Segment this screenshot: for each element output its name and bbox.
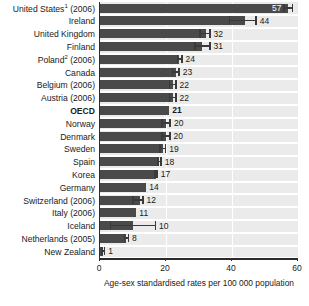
- bar: [100, 106, 169, 115]
- bar-value-label: 1: [108, 245, 113, 257]
- x-tick-mark: [231, 258, 232, 261]
- error-bar-cap: [160, 157, 162, 166]
- bar-value-label: 44: [260, 15, 269, 27]
- category-label: Poland2 (2006): [0, 54, 95, 66]
- error-bar-cap: [283, 4, 285, 13]
- bar-value-label: 23: [183, 66, 192, 78]
- category-label: Finland: [0, 41, 95, 53]
- bar-value-label: 12: [147, 194, 156, 206]
- bar-value-label: 22: [180, 92, 189, 104]
- bar-value-label: 14: [149, 181, 158, 193]
- error-bar-cap: [161, 119, 163, 128]
- bar: [100, 234, 126, 243]
- category-label: Italy (2006): [0, 207, 95, 219]
- bar: [100, 132, 166, 141]
- gridline-60: [298, 2, 299, 258]
- bar-value-label: 19: [169, 143, 178, 155]
- x-tick-mark: [297, 258, 298, 261]
- error-bar-cap: [157, 157, 159, 166]
- bar-chart: United States1 (2006)IrelandUnited Kingd…: [0, 0, 309, 306]
- category-label: United Kingdom: [0, 28, 95, 40]
- error-bar-cap: [101, 247, 103, 256]
- bar: [100, 93, 173, 102]
- error-bar-cap: [155, 221, 157, 230]
- error-bar-cap: [104, 247, 106, 256]
- error-bar-cap: [124, 234, 126, 243]
- error-bar-cap: [142, 196, 144, 205]
- error-bar-cap: [177, 55, 179, 64]
- category-label: Spain: [0, 156, 95, 168]
- bar: [100, 16, 245, 25]
- bar-value-label: 32: [214, 28, 223, 40]
- bar: [100, 170, 156, 179]
- bar: [100, 157, 159, 166]
- bar-value-label: 57: [272, 2, 281, 14]
- category-label: Switzerland (2006): [0, 195, 95, 207]
- bar-value-label: 18: [165, 156, 174, 168]
- error-bar-cap: [229, 16, 231, 25]
- category-label: New Zealand: [0, 246, 95, 258]
- footnote-marker: 1: [64, 3, 67, 9]
- error-bar-cap: [156, 170, 158, 179]
- bar-value-label: 22: [180, 79, 189, 91]
- footnote-marker: 2: [64, 54, 67, 60]
- bar: [100, 4, 288, 13]
- category-label: Austria (2006): [0, 92, 95, 104]
- error-bar-cap: [175, 80, 177, 89]
- bar: [100, 80, 173, 89]
- error-bar-cap: [199, 29, 201, 38]
- bar-rows: 57443231242322222120201918171412111081: [100, 2, 298, 258]
- error-bar-cap: [255, 16, 257, 25]
- error-bar-cap: [169, 132, 171, 141]
- category-label: Norway: [0, 118, 95, 130]
- error-bar: [229, 20, 257, 22]
- error-bar-cap: [178, 68, 180, 77]
- bar-value-label: 24: [186, 53, 195, 65]
- error-bar-cap: [110, 221, 112, 230]
- category-label: OECD: [0, 105, 95, 117]
- bar: [100, 68, 176, 77]
- bar: [100, 55, 179, 64]
- error-bar-cap: [209, 29, 211, 38]
- error-bar-cap: [132, 196, 134, 205]
- bar-value-label: 31: [214, 40, 223, 52]
- category-label: United States1 (2006): [0, 3, 95, 15]
- bar: [100, 29, 206, 38]
- bar-value-label: 21: [172, 104, 181, 116]
- bar: [100, 42, 202, 51]
- category-label: Ireland: [0, 15, 95, 27]
- bar-value-label: 17: [161, 168, 170, 180]
- x-tick-label: 20: [160, 263, 169, 273]
- x-axis-line: [99, 258, 298, 260]
- error-bar-cap: [165, 144, 167, 153]
- bar-value-label: 11: [139, 207, 148, 219]
- category-label: Germany: [0, 182, 95, 194]
- category-label: Korea: [0, 169, 95, 181]
- category-label: Sweden: [0, 143, 95, 155]
- error-bar-cap: [159, 144, 161, 153]
- error-bar-cap: [181, 55, 183, 64]
- category-label: Netherlands (2005): [0, 233, 95, 245]
- error-bar-cap: [175, 93, 177, 102]
- bar-value-label: 20: [174, 130, 183, 142]
- category-axis-labels: United States1 (2006)IrelandUnited Kingd…: [0, 2, 95, 258]
- bar-value-label: 10: [159, 220, 168, 232]
- error-bar-cap: [292, 4, 294, 13]
- category-label: Belgium (2006): [0, 79, 95, 91]
- x-tick-mark: [99, 258, 100, 261]
- category-label: Canada: [0, 67, 95, 79]
- error-bar-cap: [194, 42, 196, 51]
- bar-value-label: 20: [174, 117, 183, 129]
- x-tick-mark: [165, 258, 166, 261]
- x-tick-label: 40: [226, 263, 235, 273]
- plot-area: 57443231242322222120201918171412111081: [99, 2, 298, 258]
- category-label: Denmark: [0, 131, 95, 143]
- bar: [100, 119, 166, 128]
- error-bar-cap: [169, 119, 171, 128]
- bar: [100, 208, 136, 217]
- error-bar-cap: [128, 234, 130, 243]
- error-bar: [110, 225, 156, 227]
- x-tick-label: 0: [97, 263, 102, 273]
- error-bar-cap: [169, 80, 171, 89]
- bar: [100, 183, 146, 192]
